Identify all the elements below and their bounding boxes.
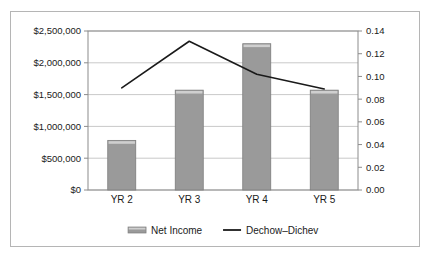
legend-label: Dechow–Dichev	[246, 225, 318, 236]
legend-label: Net Income	[151, 225, 203, 236]
right-axis-tick-label: 0.02	[366, 162, 385, 173]
bar	[108, 140, 136, 190]
trend-line	[122, 41, 325, 89]
right-axis-tick-label: 0.08	[366, 94, 385, 105]
left-axis-tick-label: $2,500,000	[33, 25, 81, 36]
category-label: YR 5	[313, 194, 336, 205]
left-axis-tick-label: $2,000,000	[33, 57, 81, 68]
right-axis-ticks: 0.000.020.040.060.080.100.120.14	[358, 25, 385, 195]
bar-top-highlight	[244, 45, 270, 48]
right-axis-tick-label: 0.10	[366, 71, 385, 82]
chart-figure: $0$500,000$1,000,000$1,500,000$2,000,000…	[0, 0, 431, 260]
category-labels: YR 2YR 3YR 4YR 5	[111, 194, 336, 205]
right-axis-tick-label: 0.06	[366, 116, 385, 127]
right-axis-tick-label: 0.14	[366, 25, 385, 36]
line-series-dechow-dichev	[122, 41, 325, 89]
left-axis-ticks: $0$500,000$1,000,000$1,500,000$2,000,000…	[33, 25, 88, 195]
right-axis-tick-label: 0.00	[366, 184, 385, 195]
category-label: YR 2	[111, 194, 134, 205]
bar-top-highlight	[109, 141, 135, 144]
chart-legend: Net IncomeDechow–Dichev	[128, 225, 318, 236]
legend-swatch-bar-highlight	[129, 228, 146, 230]
bar-top-highlight	[311, 91, 337, 94]
right-axis-tick-label: 0.12	[366, 48, 385, 59]
bar-top-highlight	[176, 91, 202, 94]
left-axis-tick-label: $1,000,000	[33, 121, 81, 132]
left-axis-tick-label: $0	[70, 184, 81, 195]
left-axis-tick-label: $500,000	[41, 153, 81, 164]
bar	[175, 90, 203, 190]
left-axis-tick-label: $1,500,000	[33, 89, 81, 100]
bar-series-net-income	[108, 44, 339, 190]
right-axis-tick-label: 0.04	[366, 139, 385, 150]
category-label: YR 3	[178, 194, 201, 205]
bar	[310, 90, 338, 190]
bar	[243, 44, 271, 190]
combo-chart: $0$500,000$1,000,000$1,500,000$2,000,000…	[0, 0, 431, 260]
category-label: YR 4	[246, 194, 269, 205]
